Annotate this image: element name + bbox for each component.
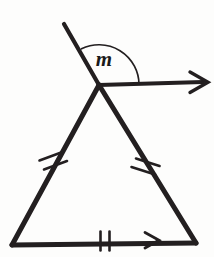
congruence-ticks-base [101, 232, 110, 251]
horizontal-ray [99, 82, 203, 85]
transversal-upper-segment [64, 24, 99, 85]
triangle-base [12, 243, 196, 245]
angle-label-m: m [96, 47, 112, 71]
geometry-diagram: m [0, 0, 214, 257]
geometry-canvas: m [0, 0, 214, 257]
triangle-right-leg [99, 85, 196, 243]
